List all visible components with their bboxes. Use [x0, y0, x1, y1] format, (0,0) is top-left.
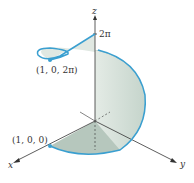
z-axis-label: z [91, 6, 97, 16]
start-point [48, 144, 52, 148]
helix-diagram: z x y 2π (1, 0, 2π) (1, 0, 0) [0, 0, 194, 183]
x-axis-label: x [8, 160, 13, 170]
y-arrow-icon [170, 158, 177, 163]
end-point-label: (1, 0, 2π) [36, 65, 78, 75]
end-point [48, 58, 52, 62]
helix-surface [41, 34, 145, 154]
x-arrow-icon [13, 158, 20, 163]
y-axis-label: y [179, 159, 186, 169]
z-tick-label: 2π [99, 29, 111, 39]
start-point-label: (1, 0, 0) [12, 135, 48, 145]
